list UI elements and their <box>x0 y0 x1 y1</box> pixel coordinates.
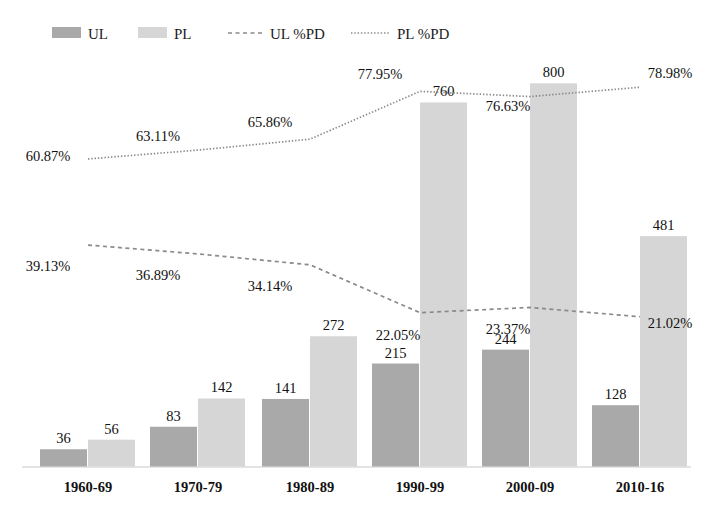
bar-value-label-ul: 128 <box>605 386 627 402</box>
bar-value-label-pl: 142 <box>211 379 233 395</box>
bar-line-combo-chart: UL PL UL %PD PL %PD <box>0 0 710 523</box>
bar-pl[interactable] <box>640 236 687 466</box>
x-axis-label: 1970-79 <box>174 479 222 495</box>
bar-value-label-ul: 215 <box>385 345 407 361</box>
pct-label-ul: 34.14% <box>248 278 293 294</box>
legend-label-pl-pct-pd: PL %PD <box>397 26 450 42</box>
bar-ul[interactable] <box>40 449 87 466</box>
pct-label-ul: 39.13% <box>26 258 71 274</box>
bar-pl[interactable] <box>310 336 357 466</box>
x-axis-label: 1960-69 <box>64 479 112 495</box>
pct-label-pl: 60.87% <box>26 148 71 164</box>
legend-label-pl: PL <box>174 26 192 42</box>
bar-value-label-ul: 36 <box>56 430 71 446</box>
chart-legend: UL PL UL %PD PL %PD <box>52 26 450 42</box>
legend-label-ul-pct-pd: UL %PD <box>270 26 325 42</box>
pct-label-pl: 77.95% <box>358 66 403 82</box>
legend-swatch-ul <box>52 27 81 38</box>
pct-label-pl: 78.98% <box>648 65 693 81</box>
pct-label-pl: 63.11% <box>136 128 180 144</box>
bar-pl[interactable] <box>88 440 135 467</box>
bar-ul[interactable] <box>482 350 529 467</box>
pct-label-pl: 65.86% <box>248 114 293 130</box>
x-axis-label: 2010-16 <box>616 479 664 495</box>
bar-ul[interactable] <box>150 427 197 467</box>
bar-value-label-pl: 760 <box>433 83 455 99</box>
bar-value-label-pl: 800 <box>543 64 565 80</box>
bar-pl[interactable] <box>420 102 467 466</box>
bar-value-label-pl: 481 <box>653 217 675 233</box>
bar-value-label-ul: 141 <box>275 380 297 396</box>
x-axis-label: 1980-89 <box>286 479 334 495</box>
bar-ul[interactable] <box>372 364 419 467</box>
pct-label-ul: 36.89% <box>136 267 181 283</box>
bar-pl[interactable] <box>198 398 245 466</box>
bar-value-label-ul: 83 <box>166 408 181 424</box>
x-axis-category-labels: 1960-69 1970-79 1980-89 1990-99 2000-09 … <box>64 479 664 495</box>
bar-ul[interactable] <box>592 405 639 466</box>
x-axis-label: 1990-99 <box>396 479 444 495</box>
pct-label-ul: 21.02% <box>648 315 693 331</box>
bar-value-label-pl: 272 <box>323 317 345 333</box>
pct-label-ul: 23.37% <box>486 321 531 337</box>
x-axis-label: 2000-09 <box>506 479 554 495</box>
pct-labels-ul: 39.13% 36.89% 34.14% 22.05% 23.37% 21.02… <box>26 258 693 343</box>
legend-label-ul: UL <box>88 26 108 42</box>
bar-ul[interactable] <box>262 399 309 467</box>
bar-pl[interactable] <box>530 83 577 466</box>
chart-container: UL PL UL %PD PL %PD <box>0 0 710 523</box>
pct-labels-pl: 60.87% 63.11% 65.86% 77.95% 76.63% 78.98… <box>26 65 693 164</box>
pct-label-ul: 22.05% <box>376 327 421 343</box>
bar-value-label-pl: 56 <box>104 421 119 437</box>
legend-swatch-pl <box>138 27 167 38</box>
pct-label-pl: 76.63% <box>486 98 531 114</box>
